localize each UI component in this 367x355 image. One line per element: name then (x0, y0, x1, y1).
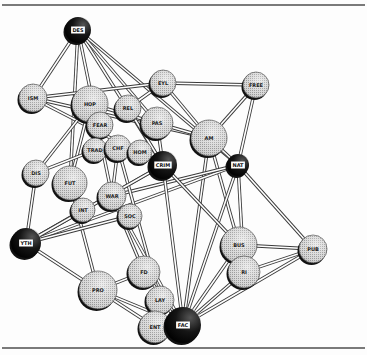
node-label: FEAR (93, 122, 108, 128)
node-label: RI (241, 269, 247, 275)
node-label: PRO (92, 287, 104, 293)
network-diagram: DESEYLFREEISMHOPRELFEARPASAMTRADCHFHOMCR… (0, 0, 367, 355)
node-label: DES (72, 27, 84, 33)
node-label: SOC (124, 213, 136, 219)
node-fut[interactable]: FUT (52, 166, 88, 202)
node-yth[interactable]: YTH (10, 228, 42, 260)
node-label: AM (205, 135, 214, 141)
node-label: BUS (233, 242, 245, 248)
node-label: PUB (307, 246, 319, 252)
node-label: CRIM (156, 162, 170, 168)
node-pro[interactable]: PRO (78, 271, 118, 311)
node-label: ENT (149, 324, 161, 330)
node-label: TRAD (87, 147, 102, 153)
node-fac[interactable]: FAC (164, 307, 202, 345)
diagram-frame: DESEYLFREEISMHOPRELFEARPASAMTRADCHFHOMCR… (0, 0, 367, 355)
node-label: FAC (178, 322, 189, 328)
node-label: HOP (84, 101, 96, 107)
node-label: FREE (249, 82, 264, 88)
node-label: NAT (232, 162, 244, 168)
node-label: HOM (133, 149, 146, 155)
node-label: LAY (155, 297, 166, 303)
node-chf[interactable]: CHF (104, 135, 132, 163)
node-free[interactable]: FREE (242, 72, 270, 100)
node-label: DIS (31, 170, 41, 176)
node-pub[interactable]: PUB (298, 235, 328, 265)
node-label: FUT (65, 180, 76, 186)
node-label: ISM (28, 95, 38, 101)
node-label: FD (140, 269, 148, 275)
node-label: PAS (152, 120, 163, 126)
node-label: EYL (158, 80, 169, 86)
node-label: YTH (19, 240, 31, 246)
node-label: INT (78, 207, 88, 213)
edge-am-fac (183, 138, 209, 325)
node-pas[interactable]: PAS (140, 107, 174, 141)
node-label: WAR (105, 193, 118, 199)
node-label: REL (123, 105, 134, 111)
node-ism[interactable]: ISM (18, 84, 48, 114)
node-label: CHF (112, 145, 123, 151)
node-dis[interactable]: DIS (22, 160, 50, 188)
